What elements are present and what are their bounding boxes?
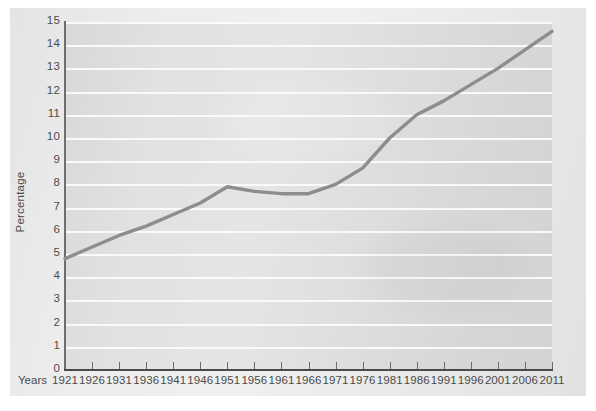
gridline <box>65 161 552 163</box>
gridline <box>65 45 552 47</box>
gridline <box>65 184 552 186</box>
x-axis-tick-mark <box>146 362 147 369</box>
chart-page: 0123456789101112131415 19211926193119361… <box>0 0 596 411</box>
gridline <box>65 277 552 279</box>
gridline <box>65 347 552 349</box>
y-axis-tick-label: 14 <box>38 37 60 49</box>
x-axis-tick-mark <box>227 362 228 369</box>
y-axis-tick-label: 3 <box>38 292 60 304</box>
x-axis-tick-mark <box>200 362 201 369</box>
y-axis-tick-label: 2 <box>38 316 60 328</box>
x-axis-tick-mark <box>363 362 364 369</box>
x-axis-tick-mark <box>390 362 391 369</box>
scan-texture <box>365 222 525 312</box>
gridline <box>65 254 552 256</box>
gridline <box>65 68 552 70</box>
gridline <box>65 208 552 210</box>
x-axis-tick-mark <box>444 362 445 369</box>
x-axis-tick-mark <box>254 362 255 369</box>
y-axis-tick-label: 5 <box>38 246 60 258</box>
y-axis-tick-label: 11 <box>38 107 60 119</box>
y-axis-tick-label: 7 <box>38 200 60 212</box>
gridline <box>65 115 552 117</box>
y-axis-tick-label: 1 <box>38 339 60 351</box>
y-axis-line <box>64 21 66 371</box>
x-axis-tick-mark <box>471 362 472 369</box>
y-axis-tick-label: 8 <box>38 176 60 188</box>
x-axis-tick-mark <box>173 362 174 369</box>
y-axis-tick-label: 0 <box>38 362 60 374</box>
gridline <box>65 231 552 233</box>
y-axis-tick-label: 13 <box>38 60 60 72</box>
gridline <box>65 300 552 302</box>
x-axis-tick-mark <box>309 362 310 369</box>
gridline <box>65 22 552 24</box>
y-axis-tick-label: 12 <box>38 84 60 96</box>
plot-area <box>65 22 552 370</box>
y-axis-tick-label: 10 <box>38 130 60 142</box>
x-axis-tick-mark <box>119 362 120 369</box>
x-axis-tick-mark <box>92 362 93 369</box>
y-axis-tick-label: 9 <box>38 153 60 165</box>
x-axis-tick-mark <box>336 362 337 369</box>
x-axis-tick-mark <box>417 362 418 369</box>
y-axis-title: Percentage <box>14 154 26 250</box>
gridline <box>65 138 552 140</box>
x-axis-tick-mark <box>498 362 499 369</box>
y-axis-tick-labels: 0123456789101112131415 <box>34 0 60 411</box>
y-axis-tick-label: 15 <box>38 14 60 26</box>
x-axis-tick-mark <box>552 362 553 369</box>
x-axis-tick-mark <box>525 362 526 369</box>
x-axis-line <box>64 369 553 371</box>
gridline <box>65 92 552 94</box>
y-axis-tick-label: 4 <box>38 269 60 281</box>
x-axis-tick-mark <box>65 362 66 369</box>
gridline <box>65 324 552 326</box>
y-axis-tick-label: 6 <box>38 223 60 235</box>
x-axis-tick-mark <box>281 362 282 369</box>
scan-texture <box>215 82 395 162</box>
x-axis-tick-label: 2011 <box>532 374 572 386</box>
line-chart-figure: 0123456789101112131415 19211926193119361… <box>0 0 596 411</box>
x-axis-caption: Years <box>18 374 47 386</box>
